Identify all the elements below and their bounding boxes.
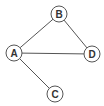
node-a-label: A [10,48,17,59]
node-a: A [6,45,22,61]
graph-diagram: A B C D [0,0,104,106]
edge-layer [14,14,92,94]
node-c: C [47,86,63,102]
edge-a-c [14,53,55,94]
edge-a-d [14,53,92,54]
node-d: D [84,46,100,62]
node-d-label: D [88,49,95,60]
node-b: B [51,6,67,22]
node-b-label: B [55,9,62,20]
edge-a-b [14,14,59,53]
node-c-label: C [51,89,58,100]
